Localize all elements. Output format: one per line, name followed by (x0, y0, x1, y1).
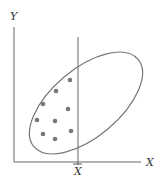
data-point (53, 137, 58, 142)
data-point (53, 119, 58, 124)
data-points (35, 78, 74, 142)
x-axis-label: X (145, 156, 155, 169)
data-point (35, 118, 40, 123)
y-axis-label: Y (10, 10, 19, 23)
mean-label: X (73, 165, 83, 178)
data-point (41, 102, 46, 107)
data-point (54, 89, 59, 94)
data-point (68, 78, 73, 83)
data-point (66, 107, 71, 112)
data-point (41, 132, 46, 137)
data-point (69, 129, 74, 134)
confidence-ellipse (12, 33, 160, 173)
scatter-ellipse-diagram: Y X X (0, 0, 160, 185)
